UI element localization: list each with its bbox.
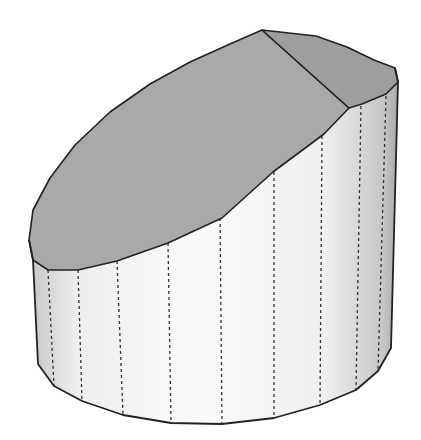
truncated-cylinder-figure — [0, 0, 421, 440]
truncated-cylinder-drawing — [0, 0, 421, 440]
